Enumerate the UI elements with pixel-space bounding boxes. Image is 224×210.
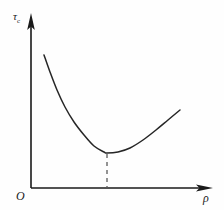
plot-canvas [0,0,224,210]
curve-path [44,55,180,153]
figure-container: τc ρ O [0,0,224,210]
origin-label: O [16,190,25,202]
x-axis-label: ρ [203,192,209,204]
y-axis-label: τc [13,11,20,25]
y-axis-label-subscript: c [17,17,20,25]
